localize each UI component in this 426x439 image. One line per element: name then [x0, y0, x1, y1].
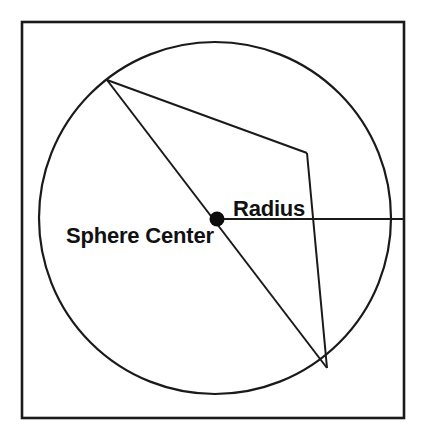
- upper-chord-line: [107, 80, 307, 153]
- radius-label: Radius: [233, 196, 305, 221]
- diagram-canvas: Radius Sphere Center: [0, 0, 426, 439]
- sphere-center-label: Sphere Center: [66, 223, 214, 248]
- right-edge-line: [307, 153, 327, 368]
- sphere-radius-figure: Radius Sphere Center: [0, 0, 426, 439]
